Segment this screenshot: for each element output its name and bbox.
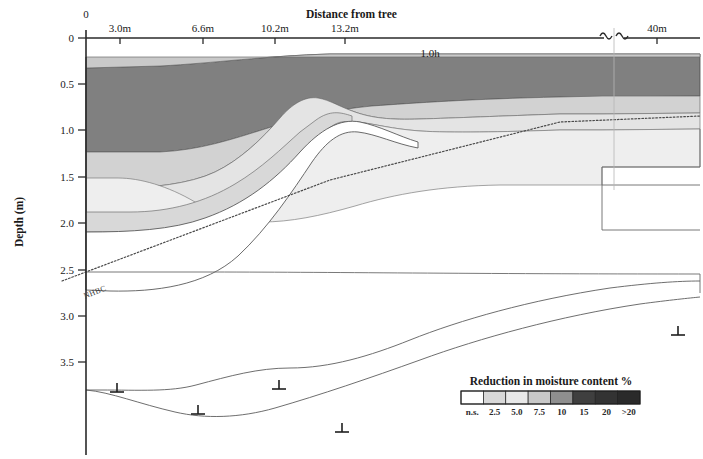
legend-label: 5.0 [511,407,522,417]
y-tick-label-1.5: 1.5 [40,171,74,183]
legend-swatch [483,391,505,404]
legend-swatch [573,391,595,404]
y-tick-label-3.5: 3.5 [40,356,74,368]
legend-label: n.s. [466,407,479,417]
x-tick-label-10.2: 10.2m [261,22,289,34]
one-h-annotation: 1.0h [420,47,439,59]
legend-label: 10 [557,407,566,417]
y-tick-label-0: 0 [40,32,74,44]
borehole-marker [272,380,286,389]
x-tick-label-0: 0 [83,8,89,20]
legend-swatch [551,391,573,404]
soil-moisture-cross-section-figure [0,0,703,459]
borehole-marker [335,423,349,432]
y-tick-label-1.0: 1.0 [40,124,74,136]
cropped-caption [0,0,703,4]
legend-swatch [528,391,550,404]
x-tick-label-6.6: 6.6m [192,22,214,34]
legend-label: 15 [580,407,589,417]
y-tick-label-0.5: 0.5 [40,78,74,90]
legend-label: 2.5 [489,407,500,417]
x-axis-ticks [120,38,657,44]
legend-label: >20 [622,407,636,417]
contour-bands [86,54,700,291]
legend-swatch [595,391,617,404]
legend-swatch [461,391,483,404]
x-tick-label-13.2: 13.2m [331,22,359,34]
borehole-marker [110,383,124,392]
y-axis-title: Depth (m) [13,177,25,267]
legend-title: Reduction in moisture content % [470,375,633,387]
legend-swatches [461,391,640,404]
x-tick-label-40: 40m [647,22,667,34]
y-axis-ticks [78,38,86,362]
legend-swatch [506,391,528,404]
x-axis-title: Distance from tree [0,8,703,20]
borehole-marker [191,405,205,414]
x-tick-label-3: 3.0m [109,22,131,34]
y-tick-label-2.0: 2.0 [40,217,74,229]
legend-swatch [618,391,640,404]
y-tick-label-2.5: 2.5 [40,264,74,276]
y-tick-label-3.0: 3.0 [40,310,74,322]
legend-label: 7.5 [534,407,545,417]
borehole-marker [671,326,685,335]
legend-label: 20 [602,407,611,417]
